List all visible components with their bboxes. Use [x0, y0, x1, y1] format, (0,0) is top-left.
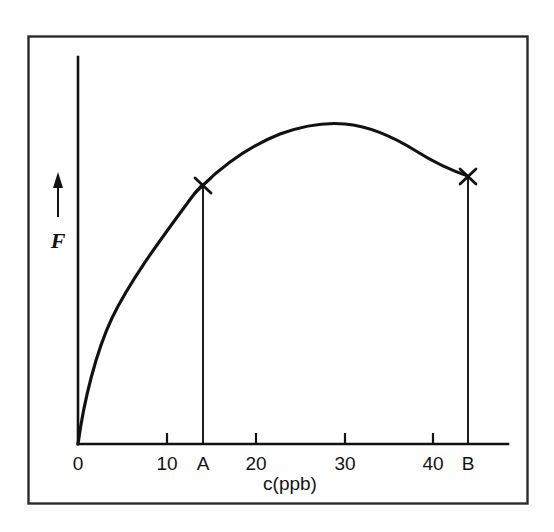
x-tick-label-0: 0	[73, 453, 84, 474]
figure-container: F 0 10 20 30 40 A B c(ppb)	[0, 0, 554, 532]
x-axis-title: c(ppb)	[263, 473, 317, 494]
x-tick-label-30: 30	[334, 453, 355, 474]
response-curve	[78, 123, 468, 444]
x-tick-label-10: 10	[156, 453, 177, 474]
x-marker-label-a: A	[197, 453, 210, 474]
y-axis-label: F	[50, 228, 66, 253]
y-axis-arrow-icon	[53, 172, 63, 217]
x-axis-ticks	[167, 433, 433, 444]
x-tick-label-20: 20	[245, 453, 266, 474]
x-marker-label-b: B	[462, 453, 475, 474]
x-tick-label-40: 40	[422, 453, 443, 474]
figure-border	[29, 37, 528, 504]
